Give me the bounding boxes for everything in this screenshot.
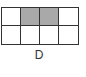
grid-cell <box>2 26 21 44</box>
grid-cell <box>21 26 40 44</box>
grid-figure <box>1 7 79 45</box>
grid-cell-shaded <box>21 8 40 26</box>
grid-cell <box>59 26 78 44</box>
grid-cell-shaded <box>40 8 59 26</box>
figure-label: D <box>0 48 78 62</box>
grid-cell <box>40 26 59 44</box>
grid-cell <box>2 8 21 26</box>
grid-cell <box>59 8 78 26</box>
